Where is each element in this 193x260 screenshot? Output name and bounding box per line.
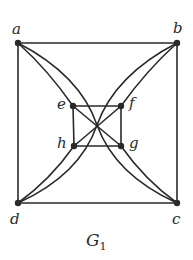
graph-diagram <box>0 0 193 260</box>
vertex-c <box>174 200 180 206</box>
label-g: g <box>129 136 139 151</box>
vertex-d <box>15 200 21 206</box>
edge-h-e <box>73 106 74 146</box>
vertex-b <box>174 40 180 46</box>
label-a: a <box>12 22 21 37</box>
figure-caption: G1 <box>86 232 107 252</box>
label-c: c <box>172 212 180 227</box>
caption-subscript: 1 <box>100 240 107 253</box>
vertex-g <box>118 143 124 149</box>
vertex-h <box>71 143 77 149</box>
label-d: d <box>10 212 20 227</box>
vertex-a <box>15 40 21 46</box>
edge-c-g <box>121 146 177 203</box>
edge-d-h <box>18 146 74 203</box>
label-e: e <box>57 97 66 112</box>
label-b: b <box>173 21 183 36</box>
vertex-e <box>70 103 76 109</box>
vertex-f <box>118 103 124 109</box>
label-h: h <box>57 136 67 151</box>
label-f: f <box>129 96 135 111</box>
caption-main: G <box>86 230 100 250</box>
